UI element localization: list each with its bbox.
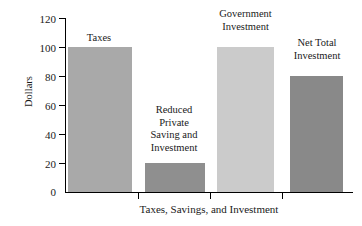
bar-reduced-private-saving-and-investment [145, 163, 205, 192]
x-tick-mark-2 [210, 193, 211, 199]
y-tick-label-20: 20 [16, 159, 56, 170]
x-axis-line [65, 192, 353, 193]
x-axis-title: Taxes, Savings, and Investment [65, 203, 353, 215]
bar-label-taxes: Taxes [58, 32, 140, 45]
bar-government-investment [217, 47, 274, 192]
bar-chart-figure: Dollars 120 100 80 60 40 20 0 Taxes Redu… [0, 0, 362, 226]
bar-label-net-total-investment: Net Total Investment [275, 37, 359, 62]
y-tick-label-40: 40 [16, 130, 56, 141]
y-tick-label-120: 120 [16, 14, 56, 25]
y-tick-label-60: 60 [16, 101, 56, 112]
y-tick-label-80: 80 [16, 72, 56, 83]
bar-label-government-investment: Government Investment [197, 8, 294, 33]
y-tick-label-0: 0 [16, 187, 56, 198]
y-tick-label-100: 100 [16, 43, 56, 54]
y-axis-title: Dollars [23, 62, 34, 122]
bar-net-total-investment [290, 76, 343, 192]
bar-taxes [68, 47, 132, 192]
x-tick-mark-3 [282, 193, 283, 199]
bar-label-reduced-private-saving-and-investment: Reduced Private Saving and Investment [134, 104, 214, 154]
x-tick-mark-1 [138, 193, 139, 199]
